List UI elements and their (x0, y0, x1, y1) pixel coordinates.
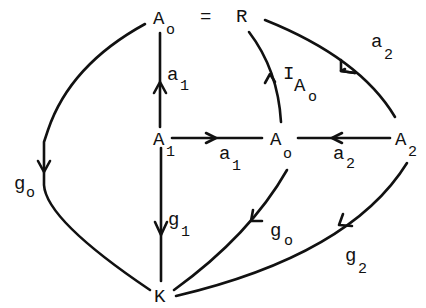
svg-text:o: o (283, 146, 292, 163)
label-a2-arc: a 2 (371, 31, 393, 64)
label-g1: g 1 (168, 209, 190, 241)
svg-text:o: o (308, 89, 317, 106)
label-g0-mid: g o (270, 220, 293, 250)
label-a2-left: a 2 (333, 143, 355, 173)
svg-text:1: 1 (166, 144, 175, 161)
svg-text:g: g (168, 209, 179, 231)
edge-g2 (176, 163, 407, 296)
label-a1-up: a 1 (167, 64, 189, 95)
edge-a1-right (172, 133, 262, 143)
label-g2: g 2 (345, 245, 367, 278)
edge-a1-up (154, 33, 166, 127)
node-K: K (154, 286, 166, 308)
label-g0-left: g o (14, 173, 35, 202)
svg-text:g: g (14, 173, 25, 195)
edge-g1 (155, 148, 167, 281)
svg-text:A: A (153, 129, 165, 151)
svg-text:A: A (153, 8, 165, 30)
edge-a2-left (298, 133, 390, 143)
label-identity: I A o (283, 63, 317, 106)
svg-text:g: g (345, 245, 356, 267)
svg-text:I: I (283, 63, 294, 85)
svg-text:A: A (294, 75, 306, 97)
svg-text:2: 2 (346, 156, 355, 173)
svg-text:2: 2 (408, 144, 417, 161)
svg-text:1: 1 (181, 224, 190, 241)
svg-text:A: A (270, 129, 282, 151)
equals-sign: = (200, 6, 211, 28)
node-A0-mid: A o (270, 129, 292, 163)
node-A0-top: A o (153, 8, 175, 39)
svg-text:o: o (284, 233, 293, 250)
node-R: R (236, 6, 247, 28)
svg-text:a: a (371, 31, 382, 53)
svg-text:1: 1 (180, 78, 189, 95)
edge-identity (249, 32, 281, 122)
svg-text:1: 1 (232, 158, 241, 175)
commutative-diagram: A o = R A 1 A o A 2 K a 1 a 1 a 2 I A o … (0, 0, 426, 308)
svg-text:o: o (26, 185, 35, 202)
svg-text:A: A (395, 129, 407, 151)
svg-text:2: 2 (384, 47, 393, 64)
node-A1: A 1 (153, 129, 175, 161)
edge-g0-left (38, 24, 150, 290)
label-a1-right: a 1 (219, 143, 241, 175)
node-A2: A 2 (395, 129, 417, 161)
svg-text:o: o (166, 22, 175, 39)
svg-text:a: a (219, 143, 230, 165)
svg-text:a: a (167, 64, 178, 86)
svg-text:2: 2 (358, 261, 367, 278)
svg-text:a: a (333, 143, 344, 165)
svg-text:g: g (270, 220, 281, 242)
